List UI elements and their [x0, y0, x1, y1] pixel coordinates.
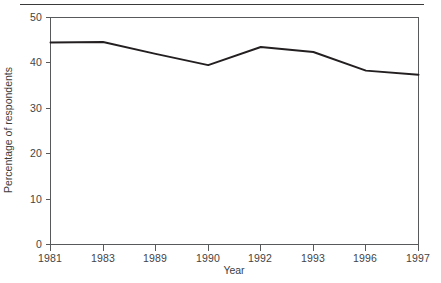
x-tick-label-1981: 1981 — [38, 252, 62, 264]
y-axis-title: Percentage of respondents — [2, 67, 14, 193]
x-tick-label-1993: 1993 — [301, 252, 325, 264]
y-axis-ticks — [46, 18, 51, 245]
x-tick-label-1997: 1997 — [406, 252, 430, 264]
chart-container: 50 40 30 20 10 0 1981 1983 1989 1990 199… — [0, 0, 441, 283]
x-tick-label-1989: 1989 — [143, 252, 167, 264]
x-tick-label-1990: 1990 — [196, 252, 220, 264]
data-series-line — [51, 42, 419, 75]
x-axis-ticks — [51, 245, 419, 251]
plot-frame — [51, 18, 419, 245]
y-tick-label-10: 10 — [20, 193, 42, 205]
x-tick-label-1983: 1983 — [91, 252, 115, 264]
y-tick-label-50: 50 — [20, 11, 42, 23]
y-tick-label-20: 20 — [20, 147, 42, 159]
x-tick-label-1996: 1996 — [353, 252, 377, 264]
x-tick-label-1992: 1992 — [248, 252, 272, 264]
y-tick-label-30: 30 — [20, 102, 42, 114]
chart-plot-svg — [0, 0, 441, 283]
x-axis-title: Year — [223, 264, 244, 276]
y-tick-label-40: 40 — [20, 56, 42, 68]
y-tick-label-0: 0 — [20, 238, 42, 250]
